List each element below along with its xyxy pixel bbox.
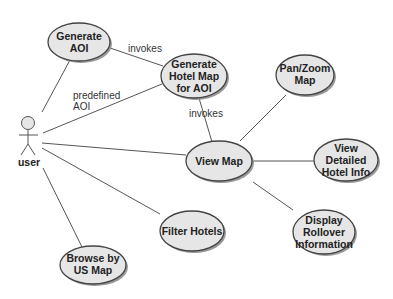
use-case-label: View — [334, 142, 359, 154]
edge-label-predefined: predefined — [73, 90, 120, 101]
line-user-browse-us-map — [43, 168, 82, 247]
edge-label-invokes-2: invokes — [189, 108, 223, 119]
use-case-label: Pan/Zoom — [280, 62, 331, 74]
use-case-browse-by-us-map[interactable]: Browse by US Map — [60, 246, 128, 286]
actor-head-icon — [22, 117, 35, 130]
use-case-label: for AOI — [176, 82, 211, 94]
edge-label-aoi: AOI — [73, 101, 90, 112]
use-case-label: AOI — [70, 42, 89, 54]
line-user-view-map — [42, 143, 186, 155]
use-case-label: US Map — [74, 264, 113, 276]
use-case-pan-zoom-map[interactable]: Pan/Zoom Map — [276, 55, 336, 97]
use-case-label: Rollover — [303, 226, 345, 238]
use-case-diagram: invokes predefined AOI invokes user Gene… — [0, 0, 393, 299]
use-case-label: Map — [295, 74, 316, 86]
line-view-map-pan-zoom — [240, 95, 286, 141]
actor-leg-left — [21, 144, 28, 155]
line-view-map-rollover — [253, 182, 293, 210]
use-case-label: Browse by — [66, 252, 119, 264]
use-case-label: Hotel Map — [169, 70, 219, 82]
edge-label-invokes: invokes — [128, 43, 162, 54]
use-case-label: Display — [305, 214, 343, 226]
use-case-view-map[interactable]: View Map — [186, 141, 254, 183]
use-case-view-detailed-hotel-info[interactable]: View Detailed Hotel Info — [314, 139, 380, 183]
actor-leg-right — [28, 144, 35, 155]
actor-user — [19, 117, 38, 156]
use-case-generate-aoi[interactable]: Generate AOI — [48, 23, 112, 63]
line-user-generate-aoi — [42, 60, 70, 112]
use-case-label: Generate — [56, 30, 102, 42]
use-case-display-rollover-information[interactable]: Display Rollover Information — [293, 210, 357, 256]
use-case-label: Generate — [171, 58, 217, 70]
use-case-label: Filter Hotels — [162, 225, 223, 237]
line-user-filter-hotels — [42, 148, 160, 214]
use-case-generate-hotel-map[interactable]: Generate Hotel Map for AOI — [161, 54, 229, 100]
line-hotel-map-view-map — [199, 98, 212, 142]
use-case-label: Detailed — [326, 154, 367, 166]
use-case-filter-hotels[interactable]: Filter Hotels — [160, 211, 226, 253]
actor-label: user — [18, 156, 40, 168]
use-case-label: Information — [295, 238, 353, 250]
use-case-label: View Map — [195, 155, 243, 167]
use-case-label: Hotel Info — [322, 166, 370, 178]
